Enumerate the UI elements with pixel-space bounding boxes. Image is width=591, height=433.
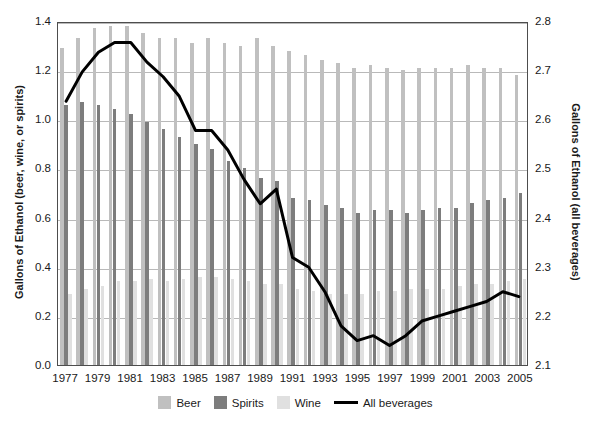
y-tick-label-right: 2.1: [535, 359, 565, 371]
legend-label-beer: Beer: [176, 397, 200, 409]
y-tick-label-left: 0.4: [21, 261, 51, 273]
y-tick-label-right: 2.3: [535, 261, 565, 273]
legend-label-spirits: Spirits: [232, 397, 264, 409]
beer-swatch-icon: [158, 396, 171, 409]
y-tick-label-right: 2.5: [535, 162, 565, 174]
y-tick-label-left: 1.4: [21, 15, 51, 27]
legend-label-wine: Wine: [295, 397, 321, 409]
y-tick-label-right: 2.6: [535, 113, 565, 125]
all-beverages-line: [66, 43, 519, 346]
plot-area: [57, 22, 528, 366]
all-beverages-line-icon: [334, 401, 358, 404]
all-beverages-line-svg: [58, 23, 527, 365]
y-tick-label-left: 1.2: [21, 64, 51, 76]
y-tick-label-right: 2.8: [535, 15, 565, 27]
y-tick-label-left: 0.8: [21, 162, 51, 174]
y-tick-label-right: 2.7: [535, 64, 565, 76]
y-tick-label-left: 0.2: [21, 310, 51, 322]
legend-item-all-beverages: All beverages: [334, 397, 433, 409]
y-axis-title-right: Gallons of Ethanol (all beverages): [570, 67, 582, 317]
y-tick-label-left: 1.0: [21, 113, 51, 125]
y-axis-title-left: Gallons of Ethanol (beer, wine, or spiri…: [13, 67, 25, 317]
legend-label-all-beverages: All beverages: [363, 397, 433, 409]
chart-legend: Beer Spirits Wine All beverages: [0, 396, 591, 409]
spirits-swatch-icon: [214, 396, 227, 409]
chart-figure: Gallons of Ethanol (beer, wine, or spiri…: [0, 0, 591, 433]
legend-item-wine: Wine: [277, 396, 321, 409]
y-tick-label-right: 2.2: [535, 310, 565, 322]
y-tick-label-left: 0.0: [21, 359, 51, 371]
y-tick-label-left: 0.6: [21, 212, 51, 224]
legend-item-beer: Beer: [158, 396, 200, 409]
wine-swatch-icon: [277, 396, 290, 409]
legend-item-spirits: Spirits: [214, 396, 264, 409]
x-tick-label: 2005: [500, 372, 540, 384]
y-tick-label-right: 2.4: [535, 212, 565, 224]
